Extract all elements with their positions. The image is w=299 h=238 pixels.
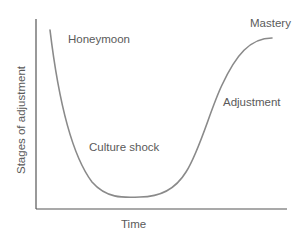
chart-canvas	[0, 0, 299, 238]
x-axis-label: Time	[121, 219, 146, 231]
y-axis-label: Stages of adjustment	[16, 66, 28, 174]
adjustment-curve	[50, 30, 272, 197]
label-adjustment: Adjustment	[223, 97, 281, 109]
u-curve-diagram: Honeymoon Culture shock Mastery Adjustme…	[0, 0, 299, 238]
label-mastery: Mastery	[250, 18, 291, 30]
label-culture-shock: Culture shock	[89, 142, 159, 154]
label-honeymoon: Honeymoon	[68, 34, 130, 46]
